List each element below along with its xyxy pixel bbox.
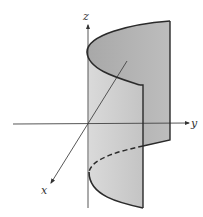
y-axis-label: y <box>190 117 198 130</box>
parabolic-cylinder-diagram: z y x <box>0 0 203 217</box>
x-axis-label: x <box>41 184 48 197</box>
z-axis-label: z <box>82 10 89 23</box>
